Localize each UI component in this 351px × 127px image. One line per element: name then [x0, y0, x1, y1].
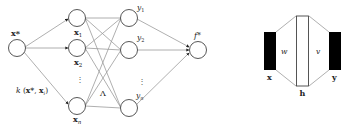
kernel-edge-label: k (x*, xi)	[16, 86, 48, 96]
x-node-1: x1	[69, 10, 86, 38]
x-vector-label: x	[267, 72, 272, 82]
x-node-1-label: x1	[74, 27, 82, 38]
y-node-n-label: yn	[135, 91, 143, 101]
output-node-fstar: f*	[190, 31, 207, 59]
h-hidden-bar	[297, 16, 309, 86]
x-node-2-label: x2	[74, 57, 82, 68]
input-node-xstar: x*	[9, 28, 26, 57]
bilinear-hidden-diagram: x h y w v	[264, 16, 341, 98]
x-nodes-ellipsis: ⋮	[76, 75, 84, 84]
diagram-canvas: x* x1 x2 ⋮ xn y1 y2 ⋮ yn	[0, 0, 351, 127]
x-node-2: x2	[69, 40, 86, 68]
w-weight-label: w	[281, 47, 288, 56]
y-vector-label: y	[331, 72, 337, 82]
lambda-label: Λ	[99, 89, 106, 98]
v-weight-label: v	[316, 47, 321, 56]
output-node-label: f*	[193, 31, 201, 40]
y-vector-bar	[329, 32, 341, 70]
h-hidden-label: h	[300, 88, 306, 98]
y-node-1-label: y1	[136, 3, 144, 13]
kernel-network-diagram: x* x1 x2 ⋮ xn y1 y2 ⋮ yn	[9, 3, 207, 125]
y-node-2-label: y2	[136, 33, 144, 43]
x-node-n: xn	[69, 98, 86, 125]
output-edges	[136, 19, 189, 105]
y-node-n: yn	[121, 91, 144, 117]
input-node-label: x*	[11, 28, 21, 38]
y-nodes-ellipsis: ⋮	[138, 77, 146, 86]
y-node-1: y1	[121, 3, 145, 27]
x-vector-bar	[264, 32, 276, 70]
x-node-n-label: xn	[73, 114, 82, 125]
y-node-2: y2	[121, 33, 145, 59]
